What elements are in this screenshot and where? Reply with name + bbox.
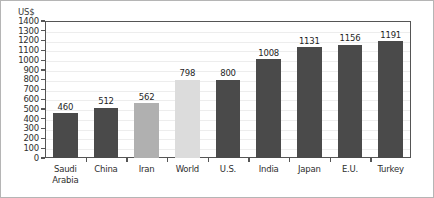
gridline [46,149,410,150]
x-axis-category-label-line: China [86,164,127,175]
x-axis-tick-mark [167,158,168,162]
x-axis-tick-mark [208,158,209,162]
x-axis-tick-mark [289,158,290,162]
gridline [46,110,410,111]
gridline [46,71,410,72]
x-axis-category-label: Japan [289,164,330,175]
gridline [46,61,410,62]
gridline [46,91,410,92]
y-axis-tick-label: 500 [23,105,41,114]
y-axis-tick-label: 700 [23,85,41,94]
y-axis-tick-label: 0 [34,154,41,163]
gridline [46,81,410,82]
gridline [46,42,410,43]
bar-chart: US$ 140013001200110010009008007006005004… [0,0,434,198]
x-axis-category-label: Turkey [370,164,411,175]
y-axis-tick-label: 1000 [18,56,41,65]
x-axis: SaudiArabiaChinaIranWorldU.S.IndiaJapanE… [45,158,411,198]
y-axis-tick-label: 900 [23,66,41,75]
x-axis-category-label: E.U. [330,164,371,175]
x-axis-category-label: India [248,164,289,175]
x-axis-tick-mark [370,158,371,162]
y-axis-tick-label: 300 [23,124,41,133]
x-axis-category-label-line: Iran [126,164,167,175]
x-axis-tick-mark [248,158,249,162]
x-axis-category-label: Iran [126,164,167,175]
y-axis-tick-label: 400 [23,115,41,124]
gridline [46,130,410,131]
x-axis-category-label-line: Turkey [370,164,411,175]
x-axis-category-label-line: India [248,164,289,175]
y-axis-tick-label: 1300 [18,27,41,36]
x-axis-category-label: China [86,164,127,175]
x-axis-category-label-line: Arabia [45,175,86,186]
gridline [46,100,410,101]
x-axis-category-label: World [167,164,208,175]
y-axis-tick-label: 800 [23,75,41,84]
y-axis-tick-label: 100 [23,144,41,153]
x-axis-category-label-line: Saudi [45,164,86,175]
x-axis-category-label: SaudiArabia [45,164,86,186]
gridline [46,120,410,121]
gridline [46,139,410,140]
x-axis-category-label-line: U.S. [208,164,249,175]
gridline [46,51,410,52]
x-axis-category-label-line: E.U. [330,164,371,175]
y-axis-tick-label: 1200 [18,36,41,45]
x-axis-tick-mark [86,158,87,162]
y-axis: 1400130012001100100090080070060050040030… [1,21,45,158]
x-axis-category-label-line: World [167,164,208,175]
gridlines [46,22,410,157]
plot-area [45,21,411,158]
y-axis-tick-label: 600 [23,95,41,104]
gridline [46,32,410,33]
y-axis-tick-label: 1400 [18,17,41,26]
x-axis-category-label: U.S. [208,164,249,175]
x-axis-tick-mark [330,158,331,162]
y-axis-tick-label: 200 [23,134,41,143]
x-axis-category-label-line: Japan [289,164,330,175]
y-axis-tick-label: 1100 [18,46,41,55]
x-axis-tick-mark [126,158,127,162]
